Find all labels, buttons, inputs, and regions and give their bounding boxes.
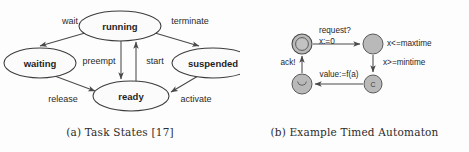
edge-terminate	[155, 33, 199, 46]
node-suspended[interactable]: suspended	[172, 48, 240, 78]
subfigure-timed-automaton: C request? x:=0 x>=mintime value:=f(a) a…	[240, 0, 469, 152]
invariant-maxtime: x<=maxtime	[387, 39, 432, 48]
state-done[interactable]	[292, 74, 312, 94]
edge-label-mintime: x>=mintime	[383, 58, 426, 67]
task-states-diagram: running waiting suspended ready wait ter…	[0, 0, 240, 120]
edge-label-release: release	[48, 94, 78, 104]
edge-label-start: start	[146, 56, 164, 66]
edge-release	[52, 75, 95, 91]
node-running[interactable]: running	[79, 11, 161, 41]
edge-activate	[171, 76, 198, 92]
caption-timed-automaton: (b) Example Timed Automaton	[240, 126, 469, 138]
edge-label-terminate: terminate	[171, 16, 209, 26]
state-commit[interactable]: C	[364, 75, 382, 93]
node-waiting[interactable]: waiting	[4, 48, 76, 78]
subfigure-task-states: running waiting suspended ready wait ter…	[0, 0, 240, 152]
edge-label-value: value:=f(a)	[320, 70, 359, 79]
node-waiting-label: waiting	[23, 58, 57, 69]
state-waitmax[interactable]	[363, 34, 383, 54]
state-initial[interactable]	[292, 34, 312, 54]
figure-root: running waiting suspended ready wait ter…	[0, 0, 469, 152]
edge-wait	[40, 33, 85, 46]
edge-label-reset-x: x:=0	[319, 37, 335, 46]
edge-label-preempt: preempt	[82, 56, 116, 66]
node-ready[interactable]: ready	[93, 81, 169, 111]
edge-label-wait: wait	[61, 16, 79, 26]
node-ready-label: ready	[118, 91, 144, 102]
caption-task-states: (a) Task States [17]	[0, 126, 240, 138]
edge-label-activate: activate	[180, 94, 211, 104]
node-suspended-label: suspended	[188, 58, 238, 69]
node-running-label: running	[102, 21, 138, 32]
timed-automaton-diagram: C request? x:=0 x>=mintime value:=f(a) a…	[240, 0, 469, 120]
edge-label-ack: ack!	[280, 58, 295, 67]
state-commit-glyph: C	[370, 81, 375, 88]
edge-label-request: request?	[319, 26, 351, 35]
